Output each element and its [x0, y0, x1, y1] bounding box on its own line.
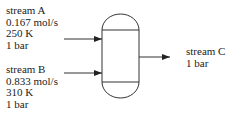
stream-a-temp: 250 K: [6, 28, 58, 40]
stream-b-name: stream B: [6, 64, 58, 76]
stream-c-label: stream C 1 bar: [186, 46, 225, 69]
stream-a-name: stream A: [6, 5, 58, 17]
stream-c-pressure: 1 bar: [186, 58, 225, 70]
stream-a-label: stream A 0.167 mol/s 250 K 1 bar: [6, 5, 58, 51]
stream-b-temp: 310 K: [6, 87, 58, 99]
vessel: [102, 14, 139, 98]
stream-a-pressure: 1 bar: [6, 40, 58, 52]
stream-c-name: stream C: [186, 46, 225, 58]
stream-b-pressure: 1 bar: [6, 99, 58, 111]
stream-b-label: stream B 0.833 mol/s 310 K 1 bar: [6, 64, 58, 110]
